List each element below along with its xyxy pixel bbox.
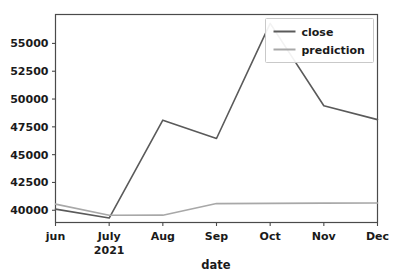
y-tick-label: 45000 bbox=[10, 149, 49, 162]
x-axis-tick-labels: junJuly2021AugSepOctNovDec bbox=[45, 230, 389, 257]
x-tick-label: Nov bbox=[312, 230, 337, 243]
legend-label-prediction[interactable]: prediction bbox=[302, 44, 365, 57]
x-tick-label: Dec bbox=[366, 230, 389, 243]
y-tick-label: 52500 bbox=[10, 65, 49, 78]
y-tick-label: 47500 bbox=[10, 121, 49, 134]
x-tick-label: Aug bbox=[151, 230, 175, 243]
x-tick-label: July bbox=[97, 230, 121, 243]
y-tick-label: 42500 bbox=[10, 176, 49, 189]
x-tick-label: jun bbox=[45, 230, 65, 243]
y-tick-label: 50000 bbox=[10, 93, 49, 106]
x-tick-label: Oct bbox=[260, 230, 281, 243]
chart-legend[interactable]: closeprediction bbox=[266, 19, 374, 63]
x-axis-title: date bbox=[201, 258, 230, 272]
line-chart-canvas: 40000425004500047500500005250055000 junJ… bbox=[0, 0, 398, 280]
series-line-prediction bbox=[56, 203, 378, 215]
x-tick-label: Sep bbox=[205, 230, 228, 243]
x-tick-sublabel: 2021 bbox=[94, 244, 125, 257]
y-tick-label: 40000 bbox=[10, 204, 49, 217]
y-tick-label: 55000 bbox=[10, 37, 49, 50]
y-axis-tick-labels: 40000425004500047500500005250055000 bbox=[10, 37, 49, 217]
legend-label-close[interactable]: close bbox=[302, 26, 334, 39]
chart-figure: 40000425004500047500500005250055000 junJ… bbox=[0, 0, 398, 280]
